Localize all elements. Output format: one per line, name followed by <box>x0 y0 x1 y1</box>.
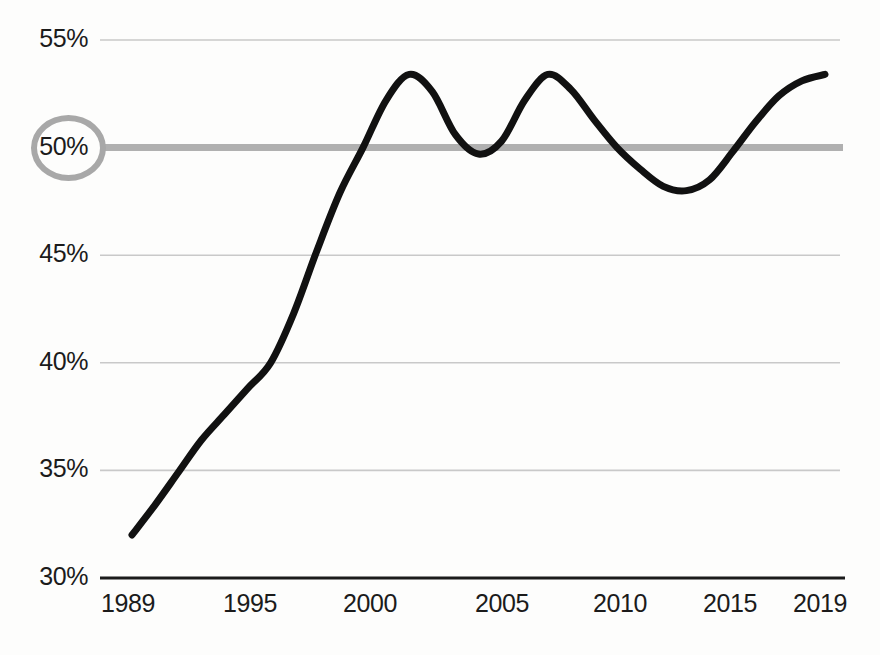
x-tick-label-2000: 2000 <box>343 589 397 618</box>
y-tick-label-40: 40% <box>16 347 88 376</box>
x-tick-label-2005: 2005 <box>475 589 529 618</box>
y-tick-label-55: 55% <box>16 24 88 53</box>
x-tick-label-2019: 2019 <box>793 589 847 618</box>
x-tick-label-1995: 1995 <box>223 589 277 618</box>
chart-container: 55%50%45%40%35%30% 198919952000200520102… <box>0 0 880 655</box>
x-tick-label-2010: 2010 <box>593 589 647 618</box>
y-tick-label-35: 35% <box>16 454 88 483</box>
line-chart-canvas <box>0 0 880 655</box>
highlight-ring-50-percent <box>31 115 106 181</box>
y-tick-label-30: 30% <box>16 562 88 591</box>
x-tick-label-2015: 2015 <box>703 589 757 618</box>
x-tick-label-1989: 1989 <box>101 589 155 618</box>
gridlines <box>100 40 840 470</box>
data-series-line <box>132 74 825 535</box>
y-tick-label-45: 45% <box>16 239 88 268</box>
series-line-0 <box>132 74 825 535</box>
